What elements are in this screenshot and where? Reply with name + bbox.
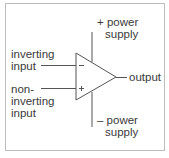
output-label-text: output — [129, 71, 161, 83]
inverting-input-label-line1: inverting — [11, 48, 54, 60]
non-inverting-input-label-line1: non- — [11, 83, 54, 95]
non-inverting-input-label-line2: inverting — [11, 95, 54, 107]
op-amp-triangle — [76, 53, 116, 100]
non-inverting-input-label-line3: input — [11, 107, 54, 119]
negative-supply-label-line2: supply — [97, 126, 138, 138]
positive-supply-label-line2: supply — [97, 28, 138, 40]
inverting-input-label-line2: input — [11, 60, 54, 72]
non-inverting-input-label: non- inverting input — [11, 83, 54, 119]
inverting-input-label: inverting input — [11, 48, 54, 72]
positive-supply-label: + power supply — [97, 16, 138, 40]
positive-supply-label-line1: + power — [97, 16, 138, 28]
output-label: output — [129, 71, 161, 83]
negative-supply-label-line1: – power — [97, 114, 138, 126]
negative-supply-label: – power supply — [97, 114, 138, 138]
